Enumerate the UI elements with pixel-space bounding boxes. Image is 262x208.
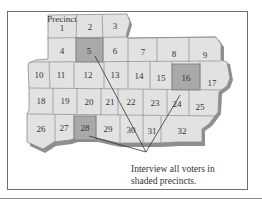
precinct-label-8: 8 [172,49,177,59]
precinct-label-5: 5 [87,46,92,56]
precinct-label-16: 16 [182,73,192,83]
precinct-label-27: 27 [60,123,70,133]
precinct-label-3: 3 [113,21,118,31]
caption-line-2: shaded precincts. [131,175,215,187]
precinct-label-26: 26 [37,124,47,134]
caption-line-1: Interview all voters in [131,163,215,175]
precinct-label-20: 20 [85,97,95,107]
precinct-label-19: 19 [61,96,71,106]
precinct-label-29: 29 [104,124,114,134]
precinct-label-15: 15 [157,73,167,83]
caption: Interview all voters in shaded precincts… [131,163,215,187]
precinct-label-17: 17 [208,78,218,88]
precinct-label-25: 25 [196,102,206,112]
precinct-label-22: 22 [127,97,136,107]
precinct-label-18: 18 [37,96,47,106]
precinct-label-2: 2 [88,22,93,32]
precinct-label-28: 28 [81,123,91,133]
precinct-title-label: Precinct [47,14,77,24]
precinct-label-1: 1 [60,23,65,33]
precinct-label-24: 24 [173,99,183,109]
precinct-label-7: 7 [141,47,146,57]
precinct-label-23: 23 [151,98,161,108]
precinct-label-31: 31 [148,126,157,136]
precinct-label-6: 6 [113,46,118,56]
precinct-label-4: 4 [60,46,65,56]
precinct-label-10: 10 [35,70,45,80]
precinct-label-13: 13 [111,70,121,80]
precinct-label-11: 11 [57,70,66,80]
precinct-label-32: 32 [178,126,187,136]
precinct-label-9: 9 [203,50,208,60]
bottom-rule [0,198,262,199]
precinct-label-12: 12 [84,70,93,80]
precinct-label-21: 21 [106,97,115,107]
precinct-label-14: 14 [135,71,145,81]
